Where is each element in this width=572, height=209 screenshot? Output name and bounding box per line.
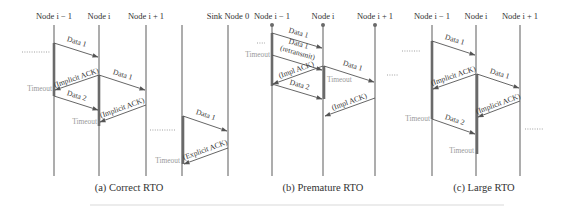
timeout-label: Timeout bbox=[245, 50, 271, 59]
node-label: Node i − 1 bbox=[36, 11, 72, 21]
panel-caption: (a) Correct RTO bbox=[95, 182, 164, 194]
message-label: Data 1 bbox=[112, 67, 134, 82]
node-label: Node i − 1 bbox=[254, 11, 290, 21]
message-label: (Implicit ACK) bbox=[475, 91, 522, 116]
timeout-label: Timeout bbox=[27, 84, 53, 93]
panel-caption: (c) Large RTO bbox=[453, 182, 515, 194]
message-label: (Impl ACK) bbox=[330, 91, 368, 112]
message-label: Data 1 bbox=[342, 58, 364, 73]
node-label: Node i + 1 bbox=[357, 11, 393, 21]
panel-correct-rto: Node i − 1 Node i Node i + 1 Sink Node 0… bbox=[22, 11, 249, 194]
node-label: Node i bbox=[312, 11, 336, 21]
timeout-label: Timeout bbox=[72, 117, 98, 126]
panel-caption: (b) Premature RTO bbox=[283, 182, 364, 194]
sequence-diagram-figure: Node i − 1 Node i Node i + 1 Sink Node 0… bbox=[0, 0, 572, 209]
panel-premature-rto: Node i − 1 Node i Node i + 1 Data 1 Time… bbox=[245, 11, 393, 194]
message-label: (Implicit ACK) bbox=[53, 66, 100, 90]
timeout-label: Timeout bbox=[327, 75, 353, 84]
node-label: Sink Node 0 bbox=[207, 11, 250, 21]
timeout-label: Timeout bbox=[405, 114, 431, 123]
message-label: (Implicit ACK) bbox=[430, 64, 477, 88]
panel-large-rto: Node i − 1 Node i Node i + 1 Data 1 (Imp… bbox=[405, 11, 543, 194]
message-label: Data 1 bbox=[66, 34, 88, 49]
timeout-label: Timeout bbox=[449, 146, 475, 155]
message-label: (Explicit ACK) bbox=[182, 137, 229, 162]
timeout-label: Timeout bbox=[155, 156, 181, 165]
node-label: Node i bbox=[465, 11, 489, 21]
node-label: Node i + 1 bbox=[502, 11, 538, 21]
node-label: Node i bbox=[88, 11, 112, 21]
message-label: Data 2 bbox=[444, 112, 466, 127]
message-label: Data 1 bbox=[444, 32, 466, 47]
node-label: Node i − 1 bbox=[414, 11, 450, 21]
node-label: Node i + 1 bbox=[128, 11, 164, 21]
message-label: Data 1 bbox=[195, 107, 217, 122]
